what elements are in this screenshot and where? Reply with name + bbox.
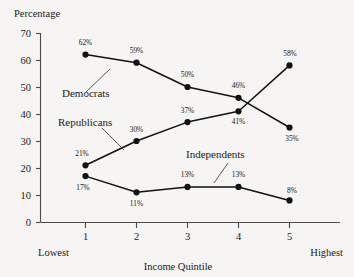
series-label-independents: Independents	[186, 148, 245, 160]
y-tick-label-70: 70	[21, 28, 32, 39]
value-label-republicans-1: 21%	[75, 149, 89, 158]
data-point-republicans-4	[235, 108, 241, 114]
value-label-independents-4: 13%	[232, 170, 246, 179]
chart-container: Percentage 0 10 20 30 40 50 60 70	[0, 0, 354, 277]
x-tick-label-5: 5	[287, 231, 292, 242]
series-independents: 17% 11% 13% 13% 8% Independents	[76, 148, 297, 208]
value-label-republicans-5: 58%	[283, 49, 297, 58]
value-label-independents-2: 11%	[130, 199, 143, 208]
y-tick-label-20: 20	[21, 163, 32, 174]
value-label-democrats-4: 46%	[232, 81, 246, 90]
value-label-independents-3: 13%	[181, 170, 195, 179]
data-point-independents-2	[133, 189, 139, 195]
x-tick-label-1: 1	[83, 231, 88, 242]
y-axis-title: Percentage	[14, 8, 60, 19]
leader-line-independents	[214, 163, 228, 183]
series-republicans: 21% 30% 37% 41% 58% Republicans	[58, 49, 297, 168]
value-label-democrats-3: 50%	[181, 70, 195, 79]
x-axis-ticks: 1 2 3 4 5	[83, 223, 292, 243]
y-tick-label-30: 30	[21, 136, 32, 147]
data-point-independents-5	[286, 197, 292, 203]
value-label-republicans-4: 41%	[232, 117, 246, 126]
value-label-republicans-2: 30%	[130, 125, 144, 134]
y-tick-label-0: 0	[26, 217, 31, 228]
data-point-republicans-2	[133, 138, 139, 144]
y-tick-label-50: 50	[21, 82, 32, 93]
value-label-democrats-5: 35%	[285, 134, 299, 143]
y-tick-label-40: 40	[21, 109, 32, 120]
value-label-independents-5: 8%	[287, 186, 297, 195]
series-label-republicans: Republicans	[58, 116, 112, 128]
data-point-independents-4	[235, 184, 241, 190]
series-label-democrats: Democrats	[62, 87, 110, 99]
data-point-democrats-2	[133, 60, 139, 66]
y-tick-label-10: 10	[21, 190, 32, 201]
line-chart: Percentage 0 10 20 30 40 50 60 70	[0, 0, 354, 277]
x-axis-right-end-label: Highest	[310, 247, 343, 258]
x-axis-left-end-label: Lowest	[38, 247, 69, 258]
y-tick-label-60: 60	[21, 55, 32, 66]
value-label-democrats-1: 62%	[79, 38, 93, 47]
value-label-republicans-3: 37%	[181, 106, 195, 115]
data-point-republicans-3	[184, 119, 190, 125]
data-point-republicans-1	[82, 162, 88, 168]
y-axis-ticks: 0 10 20 30 40 50 60 70	[21, 28, 41, 228]
x-tick-label-3: 3	[185, 231, 190, 242]
x-tick-label-4: 4	[236, 231, 242, 242]
data-point-democrats-5	[286, 124, 292, 130]
series-line-democrats	[86, 55, 290, 128]
data-point-democrats-4	[235, 95, 241, 101]
x-axis-title: Income Quintile	[144, 261, 213, 272]
data-point-independents-1	[82, 173, 88, 179]
data-point-democrats-1	[82, 52, 88, 58]
data-point-democrats-3	[184, 84, 190, 90]
leader-line-republicans	[102, 128, 124, 150]
x-tick-label-2: 2	[134, 231, 139, 242]
value-label-democrats-2: 59%	[130, 46, 144, 55]
data-point-independents-3	[184, 184, 190, 190]
data-point-republicans-5	[286, 62, 292, 68]
value-label-independents-1: 17%	[76, 183, 90, 192]
